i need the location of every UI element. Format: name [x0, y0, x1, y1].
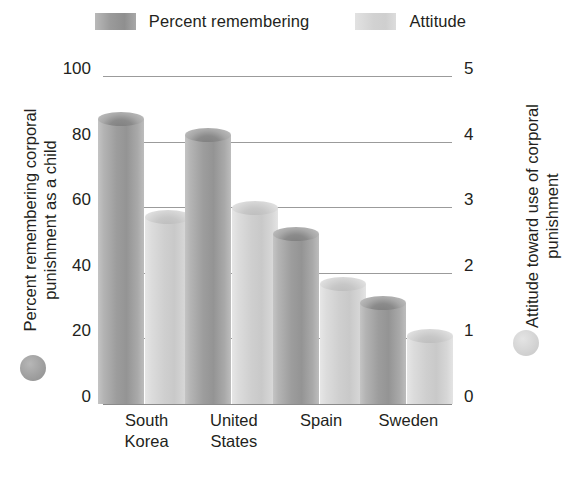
bar-percent-remembering [360, 296, 406, 404]
category-label-line2: States [210, 432, 257, 450]
bar-attitude [407, 329, 453, 404]
bar-attitude [145, 210, 191, 404]
bar-group [365, 76, 452, 404]
legend-item-percent-remembering: Percent remembering [95, 12, 310, 31]
bar-attitude [232, 201, 278, 404]
category-label-line1: Spain [300, 411, 342, 429]
bar-percent-remembering [98, 112, 144, 404]
category-label-line2: Korea [125, 432, 169, 450]
gridline [103, 404, 452, 405]
legend-label-percent-remembering: Percent remembering [149, 12, 310, 31]
legend-item-attitude: Attitude [355, 12, 466, 31]
left-tick-label: 100 [51, 59, 91, 79]
legend-swatch-light-icon [355, 13, 396, 30]
category-label-line1: Sweden [379, 411, 439, 429]
bar-percent-remembering [273, 227, 319, 404]
legend-label-attitude: Attitude [409, 12, 466, 31]
bar-cap [360, 296, 406, 310]
bar-cap [232, 201, 278, 215]
bar-attitude [320, 277, 366, 404]
left-tick-label: 40 [51, 256, 91, 276]
right-tick-label: 2 [464, 256, 504, 276]
left-tick-label: 0 [51, 387, 91, 407]
right-tick-label: 4 [464, 125, 504, 145]
legend-swatch-dark-icon [95, 13, 136, 30]
bar-group [278, 76, 365, 404]
bar-percent-remembering [185, 128, 231, 404]
right-tick-label: 3 [464, 190, 504, 210]
left-tick-label: 20 [51, 321, 91, 341]
plot-area [103, 76, 452, 404]
bar-body [273, 234, 319, 404]
category-label: UnitedStates [190, 410, 277, 452]
bar-body [185, 135, 231, 404]
right-axis-marker-circle-icon [513, 330, 539, 356]
bar-group [103, 76, 190, 404]
category-label: Spain [278, 410, 365, 431]
category-label: Sweden [365, 410, 452, 431]
bar-body [232, 208, 278, 404]
bar-body [98, 119, 144, 404]
right-tick-label: 0 [464, 387, 504, 407]
bar-body [360, 303, 406, 404]
category-label-line1: United [210, 411, 258, 429]
chart-legend: Percent remembering Attitude [0, 12, 561, 31]
bar-group [190, 76, 277, 404]
category-label: SouthKorea [103, 410, 190, 452]
bar-body [320, 284, 366, 404]
bar-body [145, 217, 191, 404]
left-tick-label: 60 [51, 190, 91, 210]
category-label-line1: South [125, 411, 168, 429]
category-axis-labels: SouthKoreaUnitedStatesSpainSweden [103, 410, 452, 470]
left-axis-marker-circle-icon [20, 355, 46, 381]
bar-series [103, 76, 452, 404]
bar-cap [407, 329, 453, 343]
bar-body [407, 336, 453, 404]
right-tick-label: 5 [464, 59, 504, 79]
bar-cap [273, 227, 319, 241]
right-axis-title: Attitude toward use of corporal punishme… [522, 91, 562, 341]
right-tick-label: 1 [464, 321, 504, 341]
left-tick-label: 80 [51, 125, 91, 145]
